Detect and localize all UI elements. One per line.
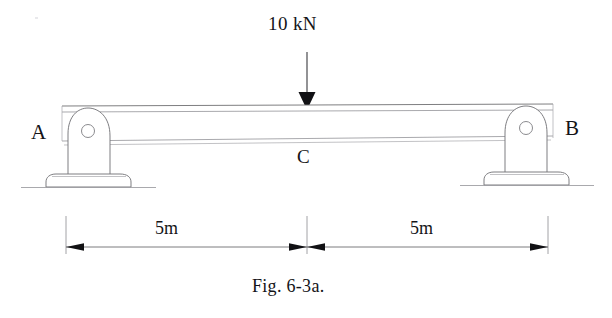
dimension-lines <box>66 216 548 254</box>
support-label-a: A <box>31 122 46 143</box>
beam <box>62 104 553 145</box>
support-label-b: B <box>565 118 579 139</box>
load-label: 10 kN <box>268 14 317 33</box>
figure-caption: Fig. 6-3a. <box>252 277 325 295</box>
dimension-left-span <box>66 243 307 251</box>
dimension-label-left: 5m <box>155 219 178 237</box>
load-arrow <box>299 52 316 110</box>
dimension-right-span <box>307 243 548 251</box>
dimension-label-right: 5m <box>410 219 433 237</box>
figure-container: 10 kN A B C 5m 5m Fig. 6-3a. <box>0 0 612 318</box>
midspan-label-c: C <box>297 147 310 166</box>
